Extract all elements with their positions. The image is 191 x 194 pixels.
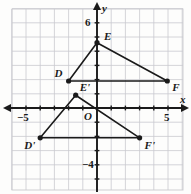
point-label-e: E [104, 31, 111, 42]
coordinate-graph-figure: −5 5 6 −4 O x y E D F E' D' F' [0, 0, 191, 194]
origin-label: O [84, 111, 92, 122]
point-label-f: F [172, 82, 179, 93]
triangle-shapes [40, 43, 167, 138]
point-label-e-prime: E' [80, 82, 90, 93]
plotted-points [38, 40, 170, 140]
point-label-d: D [55, 68, 63, 79]
graph-canvas [0, 0, 191, 194]
y-axis-label: y [102, 3, 107, 14]
x-tick-label-neg5: −5 [17, 112, 29, 123]
axis-lines [3, 2, 189, 192]
point-label-d-prime: D' [24, 140, 35, 151]
x-axis-label: x [180, 94, 186, 105]
y-tick-label-neg4: −4 [82, 159, 94, 170]
y-tick-label-6: 6 [85, 17, 91, 28]
point-label-f-prime: F' [145, 140, 155, 151]
x-tick-label-5: 5 [164, 112, 170, 123]
